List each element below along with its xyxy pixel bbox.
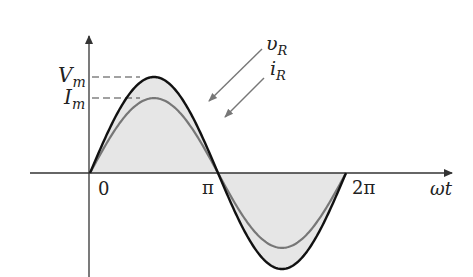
x-axis-label: ωt	[430, 178, 453, 199]
tick-label-2pi: 2π	[352, 177, 375, 198]
ir-pointer-arrow	[225, 78, 264, 117]
vr-pointer-arrow	[209, 49, 262, 101]
tick-label-pi: π	[202, 177, 214, 198]
waveform-diagram: Vm Im υR iR 0 π 2π ωt	[0, 0, 473, 277]
tick-label-0: 0	[98, 178, 109, 199]
vr-label: υR	[266, 32, 288, 58]
ir-label: iR	[270, 57, 286, 83]
